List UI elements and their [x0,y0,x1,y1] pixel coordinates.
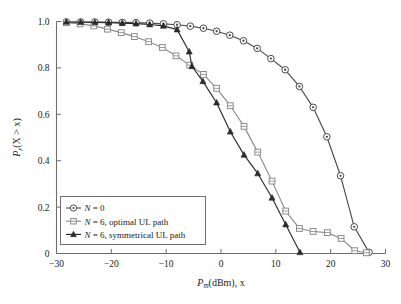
marker-circle-dot [353,226,355,228]
y-tick-label: 0 [45,249,50,259]
x-tick-label: 0 [219,259,224,269]
marker-circle-dot [312,106,314,108]
x-tick-label: 20 [326,259,336,269]
x-axis-title: Pm(dBm), x [196,277,244,291]
x-tick-label: −30 [49,259,64,269]
y-axis-title: Pr(X > x) [11,118,25,157]
ccdf-line-chart: −30−20−10010203000.20.40.60.81.0 Pm(dBm)… [0,0,401,304]
chart-figure: −30−20−10010203000.20.40.60.81.0 Pm(dBm)… [0,0,401,304]
marker-triangle [227,128,233,134]
marker-circle-dot [72,207,74,209]
y-tick-label: 0.6 [38,110,50,120]
marker-circle-dot [339,175,341,177]
legend: N = 0N = 6, optimal UL pathN = 6, symmet… [61,197,206,245]
legend-item-2: N = 6, symmetrical UL path [66,230,186,240]
x-tick-label: 10 [271,259,281,269]
marker-triangle [186,48,192,54]
legend-label: N = 6, optimal UL path [84,217,169,227]
marker-circle-dot [270,57,272,59]
y-tick-label: 0.8 [38,63,50,73]
marker-triangle [241,152,247,158]
legend-label: N = 0 [84,203,106,213]
marker-circle-dot [242,40,244,42]
y-tick-label: 1.0 [38,17,50,27]
marker-circle-dot [215,30,217,32]
marker-circle-dot [189,25,191,27]
marker-circle-dot [298,85,300,87]
marker-circle-dot [176,24,178,26]
marker-circle-dot [256,47,258,49]
legend-label: N = 6, symmetrical UL path [84,230,186,240]
x-tick-label: 30 [381,259,391,269]
marker-triangle [283,221,289,227]
marker-triangle [269,195,275,201]
y-tick-label: 0.2 [38,203,50,213]
marker-triangle [297,249,303,255]
marker-circle-dot [202,27,204,29]
marker-circle-dot [326,136,328,138]
marker-circle-dot [229,34,231,36]
x-tick-label: −20 [104,259,119,269]
x-tick-label: −10 [159,259,174,269]
marker-circle-dot [284,69,286,71]
y-tick-label: 0.4 [38,156,50,166]
